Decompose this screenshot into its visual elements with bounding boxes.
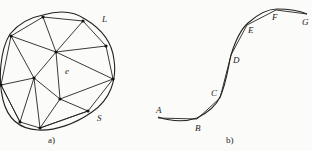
diagram-canvas: e L S a) A B C D E F G b) [0, 0, 312, 151]
panel-a-mesh: e L S a) [0, 12, 115, 145]
point-label-G: G [302, 17, 309, 27]
caption-b: b) [226, 135, 234, 145]
point-label-B: B [195, 123, 201, 133]
caption-a: a) [48, 135, 55, 145]
label-L: L [101, 14, 107, 24]
point-label-A: A [155, 105, 162, 115]
point-label-E: E [247, 25, 254, 35]
panel-b-curve: A B C D E F G b) [155, 9, 309, 145]
label-element-e: e [65, 66, 69, 76]
point-label-F: F [271, 12, 278, 22]
point-label-C: C [211, 88, 218, 98]
label-S: S [97, 113, 102, 123]
point-label-D: D [232, 55, 240, 65]
boundary-polyline-S [1, 17, 113, 128]
mesh-edges [1, 17, 113, 128]
